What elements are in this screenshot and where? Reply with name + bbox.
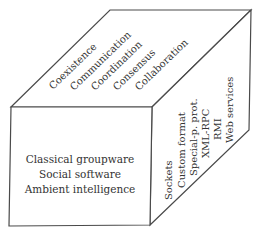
side-label-rmi: RMI <box>212 118 223 140</box>
front-label-classical-groupware: Classical groupware <box>26 153 135 165</box>
cube-front-face <box>9 107 152 226</box>
cube-diagram: Coexistence Communication Coordination C… <box>0 0 260 235</box>
side-label-sockets: Sockets <box>163 160 174 200</box>
side-label-special-p-prot: Special-p. prot. <box>188 98 199 176</box>
front-label-social-software: Social software <box>39 168 121 180</box>
front-label-ambient-intelligence: Ambient intelligence <box>24 183 136 195</box>
side-label-xml-rpc: XML-RPC <box>200 108 211 158</box>
front-face-labels: Classical groupware Social software Ambi… <box>24 153 136 195</box>
side-label-custom-format: Custom format <box>176 112 187 188</box>
side-label-web-services: Web services <box>224 77 235 143</box>
